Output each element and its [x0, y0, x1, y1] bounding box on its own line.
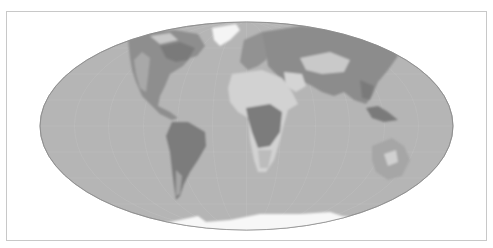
- world-map: [0, 0, 493, 248]
